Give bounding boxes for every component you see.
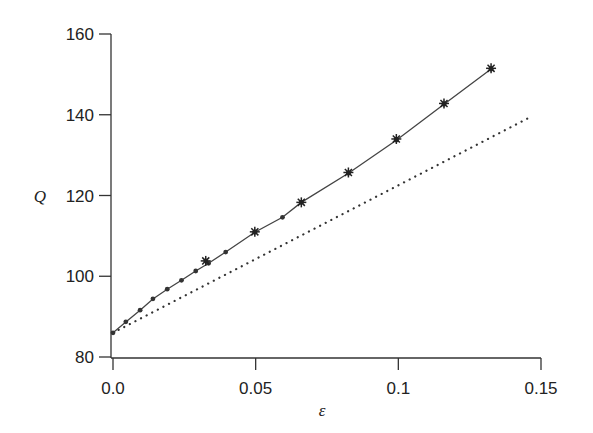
data-point-dot [151,296,156,301]
star-marker [201,256,211,266]
y-tick-label: 160 [66,25,94,44]
star-marker [250,227,260,237]
star-marker [391,134,401,144]
y-tick-label: 120 [66,187,94,206]
x-tick-label: 0.1 [387,379,411,398]
data-point-dot [280,215,285,220]
data-point-dot [165,287,170,292]
star-marker [296,197,306,207]
data-point-dot [179,278,184,283]
star-marker [343,167,353,177]
y-tick-label: 80 [75,348,94,367]
data-point-dot [123,319,128,324]
axes: 0.00.050.10.1580100120140160εQ [34,25,558,420]
data-point-dot [111,330,116,335]
x-axis-label: ε [319,401,326,420]
y-tick-label: 100 [66,267,94,286]
chart: 0.00.050.10.1580100120140160εQ [0,0,593,433]
star-marker [439,98,449,108]
star-marker [486,63,496,73]
linear-approximation-dotted-line [113,116,532,333]
data-point-dot [193,269,198,274]
y-axis-label: Q [34,187,46,206]
x-tick-label: 0.05 [239,379,272,398]
x-tick-label: 0.15 [524,379,557,398]
data-point-dot [138,308,143,313]
data-point-dot [223,250,228,255]
y-tick-label: 140 [66,106,94,125]
plot-area [111,63,533,335]
x-tick-label: 0.0 [101,379,125,398]
